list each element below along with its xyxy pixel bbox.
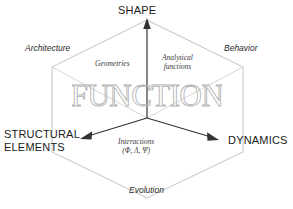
axis-arrow-shape [143, 18, 151, 118]
face-label-analytical-line2: functions [162, 63, 193, 72]
face-label-interactions-line2: (Φ, Λ, Ψ) [118, 147, 154, 156]
corner-label-behavior: Behavior [224, 44, 258, 54]
corner-label-architecture: Architecture [25, 44, 70, 54]
face-label-geometries-line1: Geometries [95, 60, 130, 69]
inner-edge-right [147, 67, 243, 118]
cube-diagram-svg [0, 0, 293, 209]
inner-edge-left [52, 67, 147, 118]
face-label-analytical-functions: Analytical functions [162, 54, 193, 72]
axis-arrow-dynamics [147, 118, 219, 141]
axis-label-structural-elements: STRUCTURAL ELEMENTS [4, 128, 80, 155]
diagram-canvas: FUNCTION SHAPE STRUCTURAL ELEMENTS DYNAM… [0, 0, 293, 209]
axis-label-structural-line2: ELEMENTS [4, 141, 80, 154]
face-label-geometries: Geometries [95, 60, 130, 69]
bottom-label-evolution: Evolution [129, 186, 164, 196]
axis-label-structural-line1: STRUCTURAL [4, 128, 80, 141]
axis-label-shape: SHAPE [118, 4, 156, 16]
axis-label-dynamics: DYNAMICS [228, 134, 288, 146]
face-label-interactions: Interactions (Φ, Λ, Ψ) [118, 138, 154, 156]
